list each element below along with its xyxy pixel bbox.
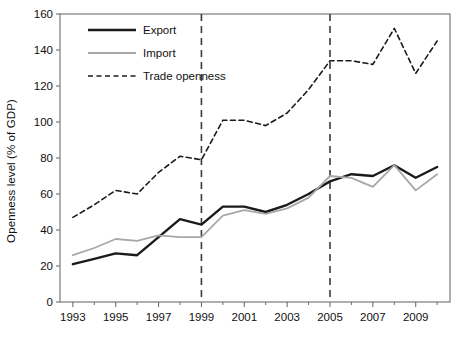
- x-tick-label: 2003: [274, 311, 300, 323]
- x-tick-label: 2007: [360, 311, 386, 323]
- y-tick-label: 120: [34, 80, 53, 92]
- x-tick-label: 2005: [317, 311, 343, 323]
- y-tick-label: 80: [40, 152, 53, 164]
- y-axis-ticks: 020406080100120140160: [34, 8, 60, 308]
- x-tick-label: 1997: [146, 311, 172, 323]
- y-tick-label: 140: [34, 44, 53, 56]
- plot-click-surface[interactable]: [60, 14, 450, 302]
- y-tick-label: 40: [40, 224, 53, 236]
- x-tick-label: 1995: [103, 311, 129, 323]
- x-tick-label: 2001: [231, 311, 257, 323]
- chart-figure: Openness level (% of GDP) 02040608010012…: [0, 0, 466, 342]
- x-tick-label: 1999: [189, 311, 215, 323]
- x-tick-label: 1993: [60, 311, 86, 323]
- x-axis-ticks: 199319951997199920012003200520072009: [60, 302, 437, 323]
- y-tick-label: 20: [40, 260, 53, 272]
- y-tick-label: 60: [40, 188, 53, 200]
- y-tick-label: 0: [47, 296, 53, 308]
- y-tick-label: 160: [34, 8, 53, 20]
- y-tick-label: 100: [34, 116, 53, 128]
- x-tick-label: 2009: [403, 311, 429, 323]
